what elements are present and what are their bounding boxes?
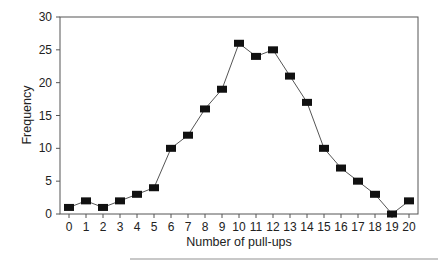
x-tick-label: 5 bbox=[151, 220, 158, 234]
x-tick-label: 19 bbox=[385, 220, 399, 234]
data-point-marker bbox=[132, 191, 142, 198]
data-point-marker bbox=[98, 204, 108, 211]
data-point-marker bbox=[387, 211, 397, 218]
divider bbox=[130, 258, 438, 260]
data-point-marker bbox=[200, 105, 210, 112]
y-tick-label: 10 bbox=[39, 141, 53, 155]
y-axis: 051015202530 bbox=[39, 10, 60, 221]
x-tick-label: 2 bbox=[100, 220, 107, 234]
data-point-marker bbox=[217, 86, 227, 93]
y-tick-label: 0 bbox=[45, 207, 52, 221]
y-tick-label: 5 bbox=[45, 174, 52, 188]
data-point-marker bbox=[370, 191, 380, 198]
x-axis: 01234567891011121314151617181920 bbox=[66, 214, 416, 234]
data-markers bbox=[64, 40, 414, 218]
y-tick-label: 30 bbox=[39, 10, 53, 24]
data-point-marker bbox=[183, 132, 193, 139]
x-tick-label: 10 bbox=[232, 220, 246, 234]
x-tick-label: 9 bbox=[219, 220, 226, 234]
x-axis-title: Number of pull-ups bbox=[186, 235, 292, 249]
x-tick-label: 20 bbox=[402, 220, 416, 234]
x-tick-label: 4 bbox=[134, 220, 141, 234]
data-point-marker bbox=[404, 197, 414, 204]
data-point-marker bbox=[285, 73, 295, 80]
line-chart: 051015202530 012345678910111213141516171… bbox=[0, 0, 438, 262]
x-tick-label: 16 bbox=[334, 220, 348, 234]
data-point-marker bbox=[302, 99, 312, 106]
data-point-marker bbox=[251, 53, 261, 60]
data-point-marker bbox=[336, 165, 346, 172]
data-point-marker bbox=[319, 145, 329, 152]
series-line bbox=[69, 43, 409, 214]
data-point-marker bbox=[234, 40, 244, 47]
x-tick-label: 1 bbox=[83, 220, 90, 234]
data-point-marker bbox=[81, 197, 91, 204]
x-tick-label: 13 bbox=[283, 220, 297, 234]
x-tick-label: 11 bbox=[250, 220, 263, 234]
x-tick-label: 6 bbox=[168, 220, 175, 234]
y-tick-label: 20 bbox=[39, 76, 53, 90]
x-tick-label: 8 bbox=[202, 220, 209, 234]
data-point-marker bbox=[353, 178, 363, 185]
y-tick-label: 15 bbox=[39, 109, 53, 123]
x-tick-label: 18 bbox=[368, 220, 382, 234]
x-tick-label: 14 bbox=[300, 220, 314, 234]
data-point-marker bbox=[149, 184, 159, 191]
x-tick-label: 3 bbox=[117, 220, 124, 234]
x-tick-label: 7 bbox=[185, 220, 192, 234]
y-axis-title: Frequency bbox=[20, 85, 34, 145]
x-tick-label: 12 bbox=[266, 220, 280, 234]
x-tick-label: 0 bbox=[66, 220, 73, 234]
x-tick-label: 17 bbox=[351, 220, 365, 234]
data-point-marker bbox=[115, 197, 125, 204]
data-point-marker bbox=[64, 204, 74, 211]
data-point-marker bbox=[166, 145, 176, 152]
data-point-marker bbox=[268, 46, 278, 53]
y-tick-label: 25 bbox=[39, 43, 53, 57]
x-tick-label: 15 bbox=[317, 220, 331, 234]
